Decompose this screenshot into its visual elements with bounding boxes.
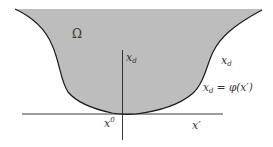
horizontal-axis-label: x′ <box>192 119 201 132</box>
side-xd-label: xd <box>221 54 232 68</box>
omega-label: Ω <box>72 27 82 41</box>
graph-equation-label: xd = φ(x′) <box>203 81 253 95</box>
origin-label: x0 <box>104 116 115 130</box>
domain-diagram: Ω xd xd xd = φ(x′) x0 x′ <box>0 0 273 147</box>
